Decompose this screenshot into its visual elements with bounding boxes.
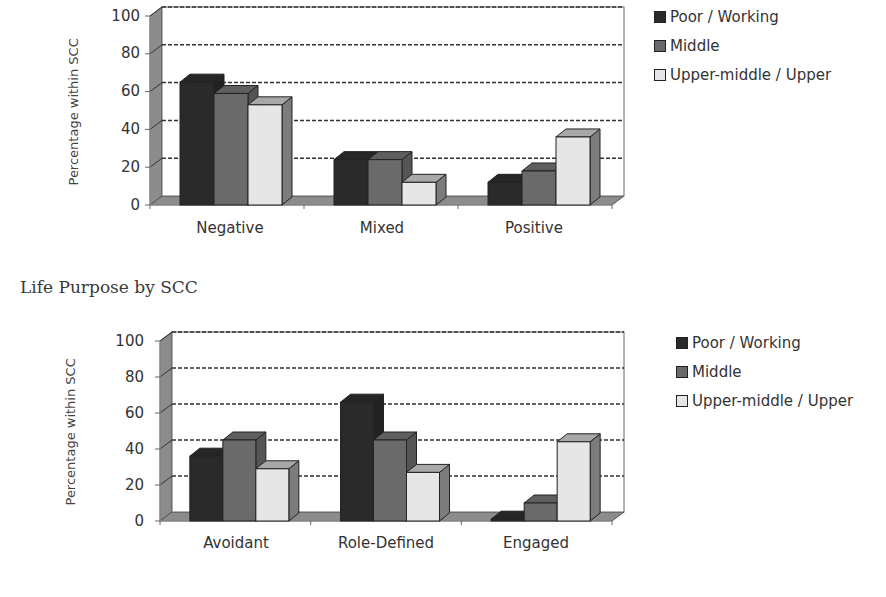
legend-label: Poor / Working	[692, 334, 801, 352]
chart-title: Life Purpose by SCC	[20, 277, 198, 297]
y-tick: 100	[110, 332, 144, 350]
y-tick: 20	[106, 158, 140, 176]
chart-outlook-by-scc: Percentage within SCC 0 20 40 60 80 100 …	[0, 0, 886, 260]
x-category-label: Role-Defined	[316, 534, 456, 552]
x-category-label: Engaged	[466, 534, 606, 552]
legend-item-middle: Middle	[676, 357, 853, 386]
y-axis-label: Percentage within SCC	[66, 26, 81, 186]
x-category-label: Avoidant	[166, 534, 306, 552]
y-tick: 80	[106, 44, 140, 62]
legend-swatch	[654, 11, 666, 23]
legend-item-poor-working: Poor / Working	[676, 328, 853, 357]
legend-item-middle: Middle	[654, 31, 831, 60]
legend: Poor / Working Middle Upper-middle / Upp…	[654, 2, 831, 89]
y-tick: 0	[106, 196, 140, 214]
x-category-label: Negative	[160, 219, 300, 237]
x-category-label: Mixed	[312, 219, 452, 237]
chart-life-purpose-by-scc: Percentage within SCC 0 20 40 60 80 100 …	[0, 320, 886, 590]
legend-label: Poor / Working	[670, 8, 779, 26]
legend-item-upper: Upper-middle / Upper	[676, 386, 853, 415]
y-tick: 60	[110, 404, 144, 422]
legend-label: Upper-middle / Upper	[692, 392, 853, 410]
y-tick: 60	[106, 82, 140, 100]
legend-swatch	[676, 337, 688, 349]
legend-swatch	[676, 395, 688, 407]
legend-swatch	[654, 40, 666, 52]
legend-label: Middle	[670, 37, 720, 55]
legend-label: Upper-middle / Upper	[670, 66, 831, 84]
legend-swatch	[654, 69, 666, 81]
y-tick: 100	[106, 7, 140, 25]
y-tick: 0	[110, 512, 144, 530]
legend: Poor / Working Middle Upper-middle / Upp…	[676, 328, 853, 415]
legend-item-poor-working: Poor / Working	[654, 2, 831, 31]
y-tick: 20	[110, 476, 144, 494]
legend-swatch	[676, 366, 688, 378]
legend-label: Middle	[692, 363, 742, 381]
y-tick: 40	[110, 440, 144, 458]
x-category-label: Positive	[464, 219, 604, 237]
y-tick: 40	[106, 120, 140, 138]
y-axis-label: Percentage within SCC	[63, 346, 78, 506]
y-tick: 80	[110, 368, 144, 386]
legend-item-upper: Upper-middle / Upper	[654, 60, 831, 89]
